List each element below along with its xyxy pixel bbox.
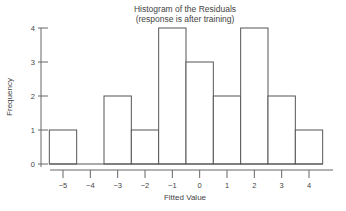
y-axis: 01234 [31, 24, 48, 169]
x-tick-label: −3 [113, 181, 122, 190]
x-tick-label: −2 [141, 181, 150, 190]
y-axis-label: Frequency [5, 78, 14, 116]
histogram-chart: Histogram of the Residuals (response is … [0, 0, 346, 211]
chart-title: Histogram of the Residuals [134, 4, 236, 14]
x-tick-label: 3 [280, 181, 284, 190]
x-tick-label: −5 [59, 181, 68, 190]
histogram-bar [241, 28, 268, 164]
y-tick-label: 0 [31, 160, 35, 169]
y-tick-label: 3 [31, 58, 35, 67]
x-axis-label: Fitted Value [164, 193, 207, 202]
histogram-bar [213, 96, 240, 164]
histogram-bar [159, 28, 186, 164]
x-tick-label: 4 [307, 181, 311, 190]
histogram-bar [131, 130, 158, 164]
y-tick-label: 4 [31, 24, 35, 33]
y-tick-label: 1 [31, 126, 35, 135]
histogram-bar [104, 96, 131, 164]
x-tick-label: −1 [168, 181, 177, 190]
x-tick-label: −4 [86, 181, 95, 190]
x-tick-label: 2 [252, 181, 256, 190]
x-tick-label: 1 [225, 181, 229, 190]
histogram-bars [49, 28, 322, 164]
histogram-bar [186, 62, 213, 164]
histogram-bar [49, 130, 76, 164]
x-axis: −5−4−3−2−101234 [50, 170, 333, 190]
histogram-bar [268, 96, 295, 164]
histogram-bar [295, 130, 322, 164]
y-tick-label: 2 [31, 92, 35, 101]
chart-subtitle: (response is after training) [136, 14, 235, 24]
x-tick-label: 0 [198, 181, 202, 190]
